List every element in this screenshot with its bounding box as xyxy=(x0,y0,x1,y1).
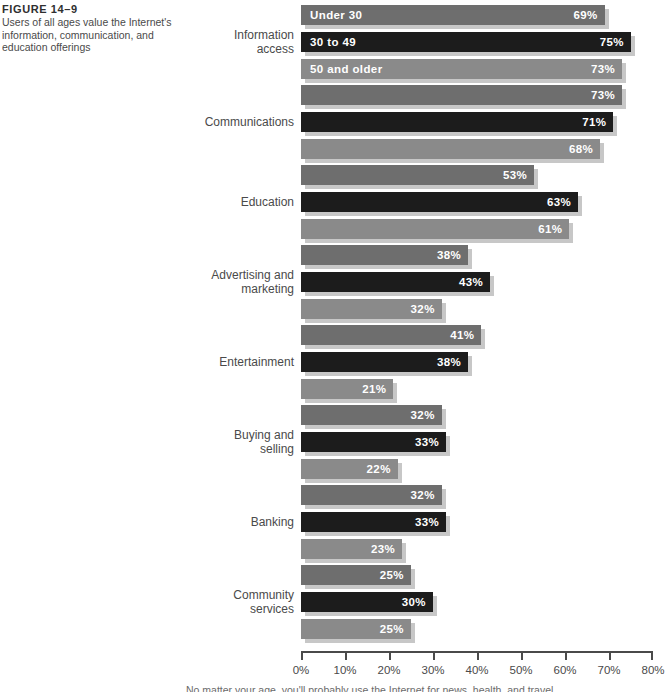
x-axis-tick-label: 0% xyxy=(279,664,323,676)
bar-value-label: 22% xyxy=(367,463,391,475)
bar-fill: 30% xyxy=(301,592,433,612)
bar[interactable]: 50 and older73% xyxy=(301,59,622,79)
bar[interactable]: 68% xyxy=(301,139,600,159)
bar[interactable]: 22% xyxy=(301,459,398,479)
bar[interactable]: 38% xyxy=(301,352,468,372)
bar[interactable]: 41% xyxy=(301,325,481,345)
legend-label: 50 and older xyxy=(310,63,383,75)
bar-fill: 63% xyxy=(301,192,578,212)
bar-fill: 25% xyxy=(301,565,411,585)
bar-value-label: 61% xyxy=(538,223,562,235)
bar-value-label: 53% xyxy=(503,169,527,181)
bar-fill: 33% xyxy=(301,432,446,452)
category-label: Education xyxy=(174,195,294,210)
category-label: Communications xyxy=(174,115,294,130)
bar-value-label: 69% xyxy=(573,9,597,21)
legend-label: Under 30 xyxy=(310,9,362,21)
bar-fill: 41% xyxy=(301,325,481,345)
x-axis-tick xyxy=(565,651,567,660)
x-axis-tick-label: 30% xyxy=(411,664,455,676)
category-label: Buying and selling xyxy=(174,428,294,457)
x-axis-tick-label: 40% xyxy=(455,664,499,676)
bar-fill: 61% xyxy=(301,219,569,239)
category-label: Information access xyxy=(174,28,294,57)
bar[interactable]: 71% xyxy=(301,112,613,132)
x-axis-tick-label: 70% xyxy=(587,664,631,676)
x-axis-tick xyxy=(345,651,347,660)
bar-fill: 53% xyxy=(301,165,534,185)
category-label: Banking xyxy=(174,515,294,530)
bar[interactable]: 23% xyxy=(301,539,402,559)
x-axis-tick xyxy=(609,651,611,660)
bar-value-label: 73% xyxy=(591,63,615,75)
bar-value-label: 33% xyxy=(415,516,439,528)
bar-fill: 30 to 4975% xyxy=(301,32,631,52)
bar[interactable]: 21% xyxy=(301,379,393,399)
bar-value-label: 68% xyxy=(569,143,593,155)
bar[interactable]: 61% xyxy=(301,219,569,239)
bar-value-label: 32% xyxy=(411,409,435,421)
bar[interactable]: 63% xyxy=(301,192,578,212)
plot-area: Under 3069%30 to 4975%50 and older73%73%… xyxy=(301,0,653,645)
bar-fill: 32% xyxy=(301,485,442,505)
legend-label: 30 to 49 xyxy=(310,36,356,48)
bar-value-label: 32% xyxy=(411,303,435,315)
bar-value-label: 21% xyxy=(362,383,386,395)
bar[interactable]: 32% xyxy=(301,405,442,425)
bar-value-label: 38% xyxy=(437,249,461,261)
bar-fill: Under 3069% xyxy=(301,5,605,25)
bar[interactable]: 38% xyxy=(301,245,468,265)
bar[interactable]: 53% xyxy=(301,165,534,185)
footer-text: No matter your age, you'll probably use … xyxy=(186,684,650,692)
bar[interactable]: 33% xyxy=(301,432,446,452)
bar[interactable]: 32% xyxy=(301,299,442,319)
bar-value-label: 38% xyxy=(437,356,461,368)
bar-value-label: 43% xyxy=(459,276,483,288)
bar[interactable]: 30 to 4975% xyxy=(301,32,631,52)
x-axis-tick xyxy=(651,651,653,660)
bar-fill: 33% xyxy=(301,512,446,532)
bar-fill: 22% xyxy=(301,459,398,479)
bar-fill: 32% xyxy=(301,405,442,425)
bar[interactable]: 25% xyxy=(301,619,411,639)
category-label: Advertising and marketing xyxy=(174,268,294,297)
bar[interactable]: 73% xyxy=(301,85,622,105)
x-axis-tick-label: 10% xyxy=(323,664,367,676)
bar[interactable]: 30% xyxy=(301,592,433,612)
bar-value-label: 63% xyxy=(547,196,571,208)
bar-fill: 25% xyxy=(301,619,411,639)
bar[interactable]: 32% xyxy=(301,485,442,505)
bar-value-label: 25% xyxy=(380,569,404,581)
bar[interactable]: 33% xyxy=(301,512,446,532)
bar-value-label: 33% xyxy=(415,436,439,448)
bar-fill: 21% xyxy=(301,379,393,399)
bar[interactable]: 43% xyxy=(301,272,490,292)
x-axis-tick xyxy=(521,651,523,660)
bar-fill: 38% xyxy=(301,352,468,372)
x-axis-tick xyxy=(433,651,435,660)
bar-value-label: 23% xyxy=(371,543,395,555)
bar-value-label: 32% xyxy=(411,489,435,501)
bar-fill: 32% xyxy=(301,299,442,319)
bar-fill: 68% xyxy=(301,139,600,159)
x-axis-tick-label: 20% xyxy=(367,664,411,676)
bar-fill: 43% xyxy=(301,272,490,292)
bar-value-label: 71% xyxy=(582,116,606,128)
bar[interactable]: 25% xyxy=(301,565,411,585)
bar-value-label: 30% xyxy=(402,596,426,608)
bar-fill: 23% xyxy=(301,539,402,559)
x-axis-tick-label: 80% xyxy=(631,664,669,676)
bar-value-label: 75% xyxy=(600,36,624,48)
category-label: Entertainment xyxy=(174,355,294,370)
x-axis-tick xyxy=(389,651,391,660)
bar-fill: 50 and older73% xyxy=(301,59,622,79)
bar-fill: 71% xyxy=(301,112,613,132)
bar[interactable]: Under 3069% xyxy=(301,5,605,25)
bar-value-label: 73% xyxy=(591,89,615,101)
category-label: Community services xyxy=(174,588,294,617)
bar-value-label: 41% xyxy=(450,329,474,341)
x-axis-tick-label: 50% xyxy=(499,664,543,676)
bar-fill: 73% xyxy=(301,85,622,105)
page-body-text-clipped: No matter your age, you'll probably use … xyxy=(186,684,650,692)
